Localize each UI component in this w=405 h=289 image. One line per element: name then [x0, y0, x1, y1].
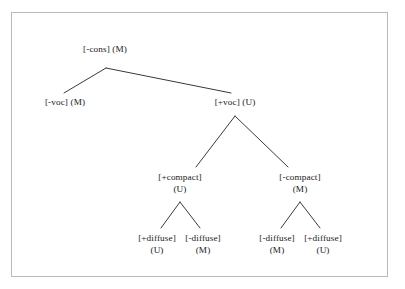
edge-compact-minus-to-diffuse-minus [281, 202, 300, 228]
tree-node-voc-minus: [-voc](M) [45, 97, 85, 109]
node-feature-label: [+diffuse] [304, 233, 342, 245]
node-feature-label: [+diffuse] [138, 233, 176, 245]
edge-compact-plus-to-diffuse-minus [180, 202, 200, 228]
node-markedness-label: (U) [138, 245, 176, 257]
node-markedness-label: (M) [279, 184, 320, 196]
node-markedness-label: (U) [304, 245, 342, 257]
edge-voc-to-compact-minus [235, 116, 288, 167]
node-markedness-label: (M) [112, 44, 127, 54]
node-markedness-label: (M) [185, 245, 221, 257]
node-feature-label: [-compact] [279, 172, 320, 184]
tree-node-root: [-cons](M) [83, 44, 127, 56]
tree-node-compact-minus: [-compact] (M) [279, 172, 320, 195]
node-feature-label: [-diffuse] [185, 233, 221, 245]
edge-voc-to-compact-plus [196, 116, 235, 167]
tree-node-voc-plus: [+voc](U) [215, 97, 256, 109]
figure-page: [-cons](M) [-voc](M) [+voc](U) [+compact… [0, 0, 405, 289]
node-feature-label: [+compact] [158, 172, 201, 184]
tree-node-diffuse-minus-left: [-diffuse] (M) [185, 233, 221, 256]
node-feature-label: [+voc] [215, 97, 240, 107]
tree-node-compact-plus: [+compact] (U) [158, 172, 201, 195]
tree-node-diffuse-plus-left: [+diffuse] (U) [138, 233, 176, 256]
node-feature-label: [-voc] [45, 97, 68, 107]
node-feature-label: [-cons] [83, 44, 110, 54]
edge-compact-minus-to-diffuse-plus [300, 202, 320, 228]
node-feature-label: [-diffuse] [259, 233, 295, 245]
edge-root-to-voc-minus [64, 68, 106, 93]
tree-node-diffuse-minus-right: [-diffuse] (M) [259, 233, 295, 256]
node-markedness-label: (M) [259, 245, 295, 257]
edge-root-to-voc-plus [106, 68, 231, 93]
node-markedness-label: (M) [70, 97, 85, 107]
node-markedness-label: (U) [242, 97, 255, 107]
tree-node-diffuse-plus-right: [+diffuse] (U) [304, 233, 342, 256]
node-markedness-label: (U) [158, 184, 201, 196]
edge-compact-plus-to-diffuse-plus [161, 202, 180, 228]
